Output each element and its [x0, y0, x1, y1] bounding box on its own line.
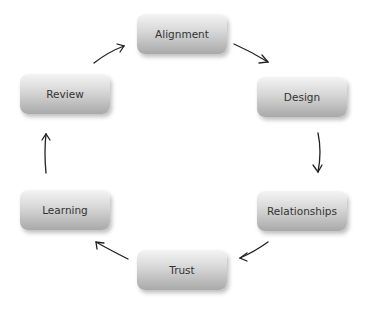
arrow-design-to-relationships [318, 133, 320, 172]
node-label: Alignment [155, 28, 209, 40]
arrow-trust-to-learning [96, 242, 128, 259]
arrow-review-to-alignment [94, 46, 124, 63]
node-label: Review [46, 88, 83, 100]
node-label: Trust [169, 264, 194, 276]
node-relationships: Relationships [257, 191, 347, 231]
node-label: Relationships [267, 205, 337, 217]
node-label: Design [284, 91, 320, 103]
node-alignment: Alignment [137, 14, 227, 54]
node-label: Learning [42, 204, 88, 216]
node-trust: Trust [137, 250, 227, 290]
arrow-learning-to-review [45, 134, 46, 173]
arrow-alignment-to-design [234, 44, 268, 62]
node-review: Review [20, 74, 110, 114]
node-design: Design [257, 77, 347, 117]
node-learning: Learning [20, 190, 110, 230]
